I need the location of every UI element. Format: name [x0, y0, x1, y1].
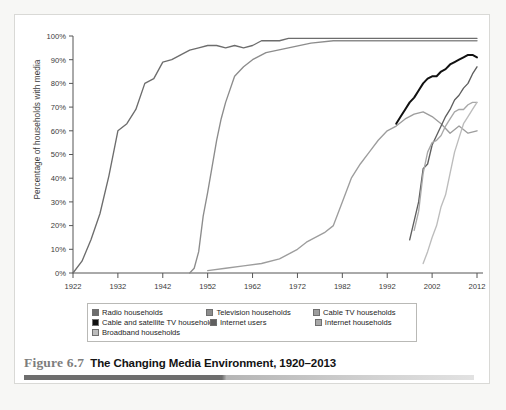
- legend-label: Internet households: [325, 318, 392, 327]
- legend-item[interactable]: Cable TV households: [313, 308, 406, 317]
- series-line: [414, 102, 477, 230]
- legend-swatch-icon: [92, 319, 99, 326]
- legend-label: Internet users: [220, 318, 266, 327]
- y-tick-label: 100%: [47, 32, 67, 41]
- legend-label: Cable TV households: [323, 308, 395, 317]
- x-tick-label: 1932: [109, 282, 126, 291]
- chart-plot-area: Percentage of households with media 0%10…: [15, 15, 491, 305]
- legend-label: Radio households: [102, 308, 163, 317]
- y-tick-label: 70%: [51, 103, 66, 112]
- y-tick-label: 60%: [51, 127, 66, 136]
- figure-number: Figure 6.7: [24, 355, 84, 371]
- figure-caption: Figure 6.7 The Changing Media Environmen…: [14, 355, 490, 395]
- x-tick-label: 2002: [424, 282, 441, 291]
- x-tick-label: 1992: [379, 282, 396, 291]
- figure-page: Percentage of households with media 0%10…: [0, 0, 506, 410]
- legend-swatch-icon: [206, 309, 213, 316]
- legend-row: Cable and satellite TV householdsInterne…: [92, 318, 412, 327]
- y-axis-label: Percentage of households with media: [33, 30, 42, 230]
- legend-item[interactable]: Internet users: [210, 318, 309, 327]
- y-tick-label: 30%: [51, 198, 66, 207]
- legend-label: Broadband households: [102, 328, 180, 337]
- x-tick-label: 1952: [199, 282, 216, 291]
- figure-container: Percentage of households with media 0%10…: [14, 14, 490, 384]
- y-tick-label: 80%: [51, 79, 66, 88]
- x-tick-label: 1922: [65, 282, 82, 291]
- series-line: [410, 67, 477, 240]
- legend-row: Broadband households: [92, 328, 412, 337]
- x-tick-label: 1962: [244, 282, 261, 291]
- legend-swatch-icon: [92, 309, 99, 316]
- legend-swatch-icon: [92, 329, 99, 336]
- legend-row: Radio householdsTelevision householdsCab…: [92, 308, 412, 317]
- x-tick-label: 1942: [154, 282, 171, 291]
- x-tick-label: 2012: [469, 282, 486, 291]
- y-tick-label: 40%: [51, 174, 66, 183]
- legend-swatch-icon: [313, 309, 320, 316]
- y-tick-label: 50%: [51, 150, 66, 159]
- legend-item[interactable]: Cable and satellite TV households: [92, 318, 204, 327]
- y-tick-label: 20%: [51, 221, 66, 230]
- x-tick-label: 1972: [289, 282, 306, 291]
- caption-rule: [24, 375, 474, 380]
- y-tick-label: 90%: [51, 56, 66, 65]
- series-line: [396, 55, 477, 124]
- legend-item[interactable]: Broadband households: [92, 328, 204, 337]
- series-line: [73, 38, 477, 273]
- line-chart-svg: 0%10%20%30%40%50%60%70%80%90%100%1922193…: [15, 15, 491, 305]
- x-tick-label: 1982: [334, 282, 351, 291]
- legend-swatch-icon: [315, 319, 322, 326]
- series-line: [423, 102, 477, 263]
- legend-item[interactable]: Radio households: [92, 308, 200, 317]
- legend-label: Television households: [216, 308, 290, 317]
- y-tick-label: 10%: [51, 245, 66, 254]
- figure-title: The Changing Media Environment, 1920–201…: [90, 357, 336, 369]
- legend-label: Cable and satellite TV households: [102, 318, 217, 327]
- legend-item[interactable]: Television households: [206, 308, 307, 317]
- y-tick-label: 0%: [55, 269, 66, 278]
- legend-swatch-icon: [210, 319, 217, 326]
- legend-item[interactable]: Internet households: [315, 318, 406, 327]
- chart-legend: Radio householdsTelevision householdsCab…: [87, 303, 417, 342]
